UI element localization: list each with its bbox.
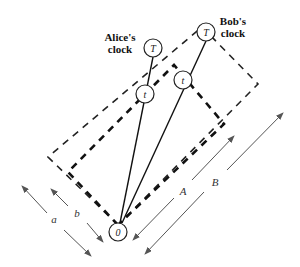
alice-clock-label-line1: Alice's xyxy=(104,31,136,43)
dimension-arrow-A: A xyxy=(133,136,234,240)
bob-worldline xyxy=(122,41,206,223)
origin-label: 0 xyxy=(116,227,121,238)
dimension-arrow-a: a xyxy=(22,186,91,256)
dimension-label-B: B xyxy=(212,176,219,188)
alice-T-node: T xyxy=(144,39,162,57)
dimension-label-A: A xyxy=(179,185,187,197)
twin-clock-diagram: 0 t T t T Alice's clock Bob's clock a b … xyxy=(0,0,300,267)
bob-clock-label-line1: Bob's xyxy=(220,15,247,27)
dimension-label-b: b xyxy=(74,207,80,219)
bob-T-node: T xyxy=(197,23,215,41)
origin-node: 0 xyxy=(109,223,127,241)
dimension-arrow-b: b xyxy=(51,189,103,242)
dimension-label-a: a xyxy=(51,213,57,225)
bob-t-node: t xyxy=(174,71,192,89)
alice-t-label: t xyxy=(144,89,147,100)
alice-clock-label-line2: clock xyxy=(108,43,133,55)
bob-clock-label-line2: clock xyxy=(221,27,246,39)
alice-t-node: t xyxy=(136,85,154,103)
bob-t-label: t xyxy=(182,75,185,86)
